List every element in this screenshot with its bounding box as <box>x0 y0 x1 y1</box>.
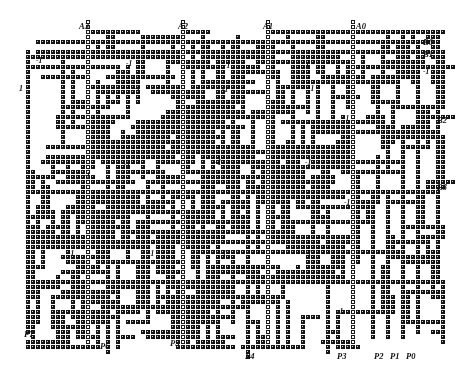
cost-marker-3: -1 <box>224 62 230 70</box>
cost-marker-9: -1 <box>124 161 130 169</box>
cost-marker-1: -1 <box>126 60 132 68</box>
cost-marker-2: -1 <box>134 85 140 93</box>
input-label-a1: A1 <box>263 22 273 31</box>
cost-marker-7: -1 <box>423 68 429 76</box>
output-label-b2: B2 <box>437 116 447 125</box>
input-label-a3: A3 <box>79 22 89 31</box>
cost-marker-10: -1 <box>84 172 90 180</box>
cost-marker-15: -1 <box>148 250 154 258</box>
cost-marker-5: -1 <box>303 62 309 70</box>
pin-label-p7: P7 <box>24 330 33 339</box>
cost-marker-4: -1 <box>222 86 228 94</box>
cost-marker-18: -1 <box>337 308 343 316</box>
pin-label-p4: P4 <box>245 352 254 361</box>
pin-label-p6: P6 <box>100 342 109 351</box>
pin-label-p2: P2 <box>374 352 383 361</box>
input-label-a2: A2 <box>178 22 188 31</box>
pin-label-p0: P0 <box>406 352 415 361</box>
seed-label: 1 <box>19 85 23 93</box>
cost-marker-13: -1 <box>344 199 350 207</box>
output-label-b0: B0 <box>423 38 433 47</box>
cost-marker-6: -1 <box>308 85 314 93</box>
cost-marker-0: -1 <box>36 57 42 65</box>
cost-marker-12: -1 <box>305 159 311 167</box>
cost-marker-16: -1 <box>220 250 226 258</box>
routing-diagram: A3A2A1A0B0B1B2B3P7P6P5P4P3P2P1P01-1-1-1-… <box>0 0 466 375</box>
cost-marker-14: -1 <box>68 250 74 258</box>
pin-label-p1: P1 <box>390 352 399 361</box>
routing-grid-canvas <box>0 0 466 375</box>
output-label-b1: B1 <box>423 50 433 59</box>
output-label-b3: B3 <box>437 183 447 192</box>
cost-marker-8: -1 <box>343 115 349 123</box>
input-label-a0: A0 <box>356 22 366 31</box>
cost-marker-17: -1 <box>305 250 311 258</box>
pin-label-p5: P5 <box>170 339 179 348</box>
cost-marker-11: -1 <box>215 159 221 167</box>
pin-label-p3: P3 <box>337 352 346 361</box>
